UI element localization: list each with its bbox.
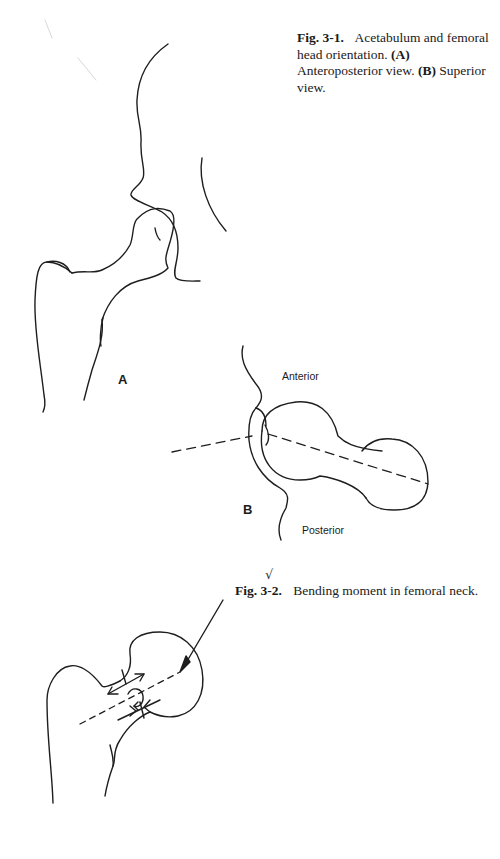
acetabulum-inner bbox=[256, 408, 266, 426]
compression-arrow-shaft bbox=[118, 700, 160, 720]
part-a-text: Anteroposterior view. bbox=[297, 63, 415, 78]
femoral-head-b-lower bbox=[261, 431, 366, 498]
figure-3-2-caption-text: Bending moment in femoral neck. bbox=[293, 583, 478, 598]
part-b-label: (B) bbox=[418, 63, 436, 78]
ilium-outline bbox=[131, 44, 200, 281]
joint-force-line bbox=[183, 600, 223, 668]
part-a-label: (A) bbox=[391, 47, 410, 62]
anterior-label: Anterior bbox=[282, 370, 319, 382]
femur-neck-lateral bbox=[47, 666, 120, 803]
figure-3-1-number: Fig. 3-1. bbox=[297, 30, 344, 45]
acetabular-arc bbox=[201, 158, 226, 231]
figure-3-2-bending-moment bbox=[47, 600, 223, 803]
figure-3-1a-ap-view bbox=[35, 44, 226, 412]
figure-3-1-caption: Fig. 3-1. Acetabulum and femoral head or… bbox=[297, 30, 497, 96]
check-mark: √ bbox=[265, 567, 273, 582]
femur-medial-shaft bbox=[84, 320, 102, 400]
posterior-label: Posterior bbox=[302, 524, 344, 536]
figure-3-2-caption: Fig. 3-2. Bending moment in femoral neck… bbox=[235, 583, 500, 600]
axis-line-acetabulum bbox=[172, 436, 252, 452]
fovea-mark bbox=[155, 228, 160, 240]
pelvic-wall-anterior bbox=[242, 346, 261, 408]
femoral-head-b bbox=[262, 402, 382, 451]
acetabulum-cup bbox=[249, 408, 288, 540]
angle-arc bbox=[265, 425, 269, 445]
femoral-head-outline bbox=[72, 208, 174, 320]
figure-drawings bbox=[0, 0, 500, 859]
femoral-head-3-2 bbox=[120, 632, 203, 717]
panel-b-label: B bbox=[243, 502, 252, 517]
trochanter-mark bbox=[110, 745, 113, 766]
figure-3-2-number: Fig. 3-2. bbox=[235, 583, 282, 598]
panel-a-label: A bbox=[118, 372, 127, 387]
bleed-through-mark bbox=[45, 20, 96, 80]
femur-lateral-shaft bbox=[35, 262, 72, 412]
